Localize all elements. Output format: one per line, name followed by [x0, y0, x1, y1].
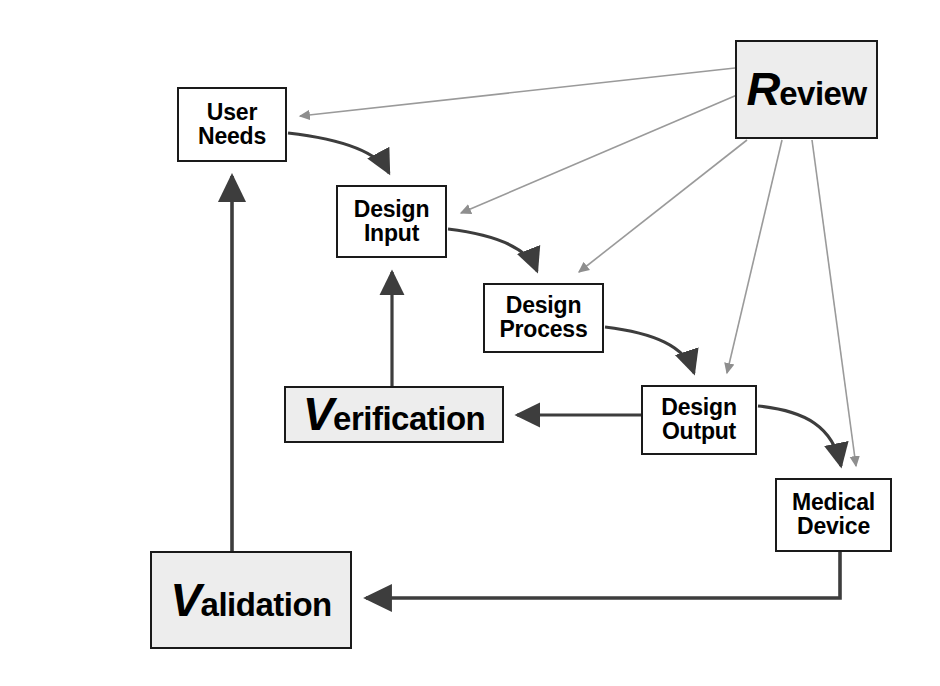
edge-design-output-to-medical-device	[758, 406, 841, 466]
edge-design-input-to-design-process	[448, 229, 537, 271]
node-validation-label: Validation	[170, 576, 331, 625]
edge-review-to-design-process	[579, 140, 747, 272]
node-user-needs[interactable]: User Needs	[177, 87, 287, 162]
node-user-needs-label: User Needs	[198, 101, 266, 149]
node-medical-device-label: Medical Device	[792, 491, 875, 539]
edge-review-to-design-output	[727, 140, 782, 373]
design-control-diagram: User Needs Design Input Design Process D…	[0, 0, 940, 686]
node-design-input[interactable]: Design Input	[336, 185, 447, 258]
edge-medical-device-to-validation	[366, 552, 840, 598]
node-verification-label: Verification	[303, 390, 485, 439]
node-review[interactable]: Review	[735, 40, 878, 139]
flow-arrow-group	[232, 133, 841, 598]
node-verification[interactable]: Verification	[284, 386, 504, 443]
edge-review-to-medical-device	[812, 140, 856, 466]
node-design-input-label: Design Input	[354, 198, 429, 246]
edge-user-needs-to-design-input	[288, 133, 389, 173]
edge-review-to-design-input	[461, 95, 737, 213]
node-review-label: Review	[746, 65, 866, 114]
node-design-output-label: Design Output	[661, 396, 736, 444]
edge-design-process-to-design-output	[605, 327, 694, 373]
node-design-process-label: Design Process	[499, 294, 587, 342]
node-medical-device[interactable]: Medical Device	[775, 478, 892, 552]
node-design-process[interactable]: Design Process	[483, 283, 604, 353]
node-validation[interactable]: Validation	[150, 551, 352, 649]
edge-review-to-user-needs	[300, 68, 735, 116]
node-design-output[interactable]: Design Output	[641, 385, 757, 455]
